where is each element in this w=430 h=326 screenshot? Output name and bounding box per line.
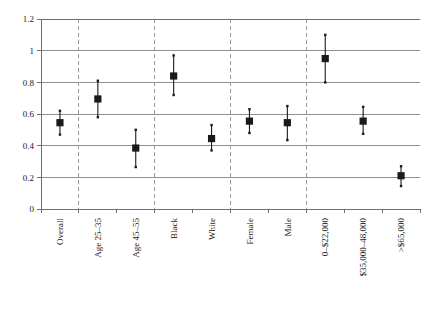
chart-container: 00.20.40.60.811.2 OverallAge 25–35Age 45… <box>0 0 430 326</box>
x-tick-label: Black <box>169 218 179 239</box>
y-tick-label: 0.2 <box>23 173 34 183</box>
error-bar-lower-cap <box>135 166 137 168</box>
data-point-group <box>94 80 101 119</box>
data-point-group <box>322 34 329 84</box>
x-axis-ticks <box>41 209 420 213</box>
error-bar-upper-cap <box>286 105 288 107</box>
x-tick-label: Age 45–55 <box>131 218 141 258</box>
error-bar-lower-cap <box>97 116 99 118</box>
data-point-marker <box>397 172 404 179</box>
data-point-marker <box>170 72 177 79</box>
error-bar-lower-cap <box>59 133 61 135</box>
error-bar-lower-cap <box>324 81 326 83</box>
y-tick-label: 0.4 <box>23 141 35 151</box>
error-bar-lower-cap <box>286 139 288 141</box>
x-tick-label: White <box>207 218 217 240</box>
x-tick-label: Age 25–35 <box>93 218 103 258</box>
error-bar-lower-cap <box>362 133 364 135</box>
error-bar-lower-cap <box>248 132 250 134</box>
data-point-marker <box>94 95 101 102</box>
y-tick-label: 0 <box>30 204 35 214</box>
error-bar-upper-cap <box>400 165 402 167</box>
data-point-group <box>246 108 253 134</box>
x-tick-label: >$65,000 <box>396 218 406 253</box>
data-point-group <box>170 54 177 96</box>
y-tick-label: 1 <box>30 46 35 56</box>
data-point-marker <box>208 135 215 142</box>
error-bar-lower-cap <box>172 94 174 96</box>
error-bar-chart: 00.20.40.60.811.2 OverallAge 25–35Age 45… <box>0 0 430 326</box>
error-bar-upper-cap <box>97 80 99 82</box>
y-tick-label: 0.6 <box>23 109 35 119</box>
data-point-marker <box>56 119 63 126</box>
data-point-marker <box>246 118 253 125</box>
x-tick-label: Female <box>245 218 255 245</box>
error-bar-upper-cap <box>135 129 137 131</box>
data-point-marker <box>322 55 329 62</box>
x-axis-labels: OverallAge 25–35Age 45–55BlackWhiteFemal… <box>55 218 406 277</box>
x-tick-label: 0–$22,000 <box>320 218 330 257</box>
x-tick-label: Overall <box>55 218 65 245</box>
data-point-group <box>397 165 404 187</box>
error-bar-upper-cap <box>210 124 212 126</box>
data-point-group <box>208 124 215 152</box>
error-bar-upper-cap <box>248 108 250 110</box>
y-axis-ticks: 00.20.40.60.811.2 <box>23 14 41 214</box>
x-tick-label: $35,000–48,000 <box>358 218 368 277</box>
data-point-marker <box>360 118 367 125</box>
error-bar-lower-cap <box>400 185 402 187</box>
data-point-group <box>284 105 291 141</box>
error-bar-upper-cap <box>362 106 364 108</box>
error-bar-upper-cap <box>59 110 61 112</box>
data-point-group <box>360 106 367 135</box>
error-bar-upper-cap <box>324 34 326 36</box>
data-point-marker <box>284 119 291 126</box>
x-tick-label: Male <box>283 218 293 237</box>
y-tick-label: 1.2 <box>23 14 34 24</box>
y-tick-label: 0.8 <box>23 78 35 88</box>
data-point-group <box>132 129 139 169</box>
data-point-marker <box>132 144 139 151</box>
error-bar-lower-cap <box>210 149 212 151</box>
error-bar-upper-cap <box>172 54 174 56</box>
